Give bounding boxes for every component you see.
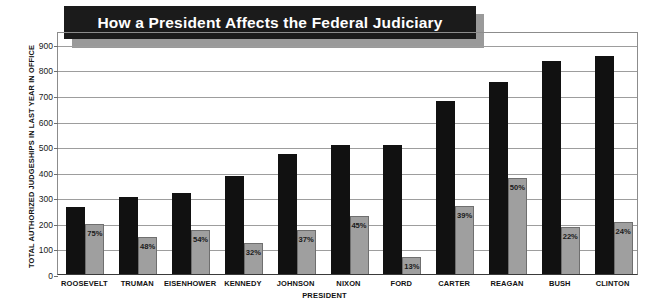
bar-percent-label: 32% xyxy=(245,248,262,257)
bar-total-judgeships xyxy=(225,176,244,274)
bar-percent-label: 39% xyxy=(456,211,473,220)
y-tick-mark xyxy=(54,276,58,277)
bar-appointed-share: 50% xyxy=(508,178,527,274)
bar-appointed-share: 13% xyxy=(402,257,421,274)
y-tick-label: 600 xyxy=(39,118,53,128)
bar-total-judgeships xyxy=(278,154,297,274)
bar-group: 54% xyxy=(172,33,210,274)
bar-total-judgeships xyxy=(383,145,402,274)
bar-appointed-share: 24% xyxy=(614,222,633,274)
bar-series-container: 75%48%54%32%37%45%13%39%50%22%24% xyxy=(58,33,637,274)
x-axis-title: PRESIDENT xyxy=(0,291,649,300)
bar-appointed-share: 45% xyxy=(350,216,369,274)
bar-total-judgeships xyxy=(595,56,614,274)
bar-group: 50% xyxy=(489,33,527,274)
bar-group: 39% xyxy=(436,33,474,274)
bar-total-judgeships xyxy=(489,82,508,274)
bar-group: 22% xyxy=(542,33,580,274)
x-tick-label: NIXON xyxy=(336,279,360,288)
bar-percent-label: 37% xyxy=(298,235,315,244)
x-tick-label: FORD xyxy=(390,279,412,288)
x-tick-label: KENNEDY xyxy=(224,279,261,288)
bar-group: 37% xyxy=(278,33,316,274)
bar-percent-label: 54% xyxy=(192,235,209,244)
y-tick-label: 300 xyxy=(39,194,53,204)
y-tick-label: 0 xyxy=(48,271,53,281)
bar-appointed-share: 32% xyxy=(244,243,263,274)
bar-total-judgeships xyxy=(331,145,350,274)
x-tick-label: EISENHOWER xyxy=(164,279,216,288)
bar-percent-label: 22% xyxy=(562,232,579,241)
y-tick-label: 200 xyxy=(39,220,53,230)
x-tick-label: ROOSEVELT xyxy=(61,279,108,288)
bar-percent-label: 13% xyxy=(403,262,420,271)
x-tick-label: BUSH xyxy=(549,279,571,288)
bar-group: 24% xyxy=(595,33,633,274)
bar-appointed-share: 39% xyxy=(455,206,474,274)
y-tick-label: 100 xyxy=(39,245,53,255)
bar-group: 13% xyxy=(383,33,421,274)
bar-total-judgeships xyxy=(119,197,138,274)
bar-percent-label: 45% xyxy=(351,221,368,230)
y-tick-label: 700 xyxy=(39,92,53,102)
y-tick-label: 900 xyxy=(39,41,53,51)
bar-percent-label: 50% xyxy=(509,183,526,192)
bar-appointed-share: 48% xyxy=(138,237,157,274)
bar-appointed-share: 75% xyxy=(85,224,104,274)
bar-total-judgeships xyxy=(172,193,191,274)
bar-total-judgeships xyxy=(542,61,561,274)
chart-title: How a President Affects the Federal Judi… xyxy=(97,14,442,32)
bar-appointed-share: 37% xyxy=(297,230,316,274)
bar-group: 75% xyxy=(66,33,104,274)
bar-group: 32% xyxy=(225,33,263,274)
x-tick-label: CLINTON xyxy=(596,279,630,288)
bar-total-judgeships xyxy=(436,101,455,274)
bar-total-judgeships xyxy=(66,207,85,274)
bar-percent-label: 75% xyxy=(86,229,103,238)
y-tick-label: 500 xyxy=(39,143,53,153)
x-tick-label: REAGAN xyxy=(490,279,523,288)
x-tick-label: TRUMAN xyxy=(121,279,154,288)
bar-group: 45% xyxy=(331,33,369,274)
y-tick-label: 400 xyxy=(39,169,53,179)
y-axis-title: TOTAL AUTHORIZED JUDGESHIPS IN LAST YEAR… xyxy=(27,37,36,277)
chart-page: How a President Affects the Federal Judi… xyxy=(0,0,649,305)
bar-percent-label: 48% xyxy=(139,242,156,251)
y-tick-label: 800 xyxy=(39,66,53,76)
x-tick-label: CARTER xyxy=(438,279,470,288)
bar-appointed-share: 22% xyxy=(561,227,580,274)
bar-group: 48% xyxy=(119,33,157,274)
x-tick-label: JOHNSON xyxy=(277,279,315,288)
bar-percent-label: 24% xyxy=(615,227,632,236)
plot-area: 0100200300400500600700800900 75%48%54%32… xyxy=(57,32,638,275)
bar-appointed-share: 54% xyxy=(191,230,210,274)
